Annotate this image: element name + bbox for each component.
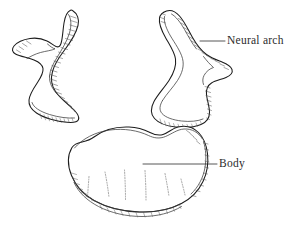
vertebra-figure: Neural arch Body: [0, 0, 305, 231]
right-neural-arch-group: [151, 11, 232, 129]
vertebral-body-outline: [69, 126, 208, 212]
left-neural-arch-group: [12, 10, 78, 122]
vertebral-body-group: [69, 126, 209, 217]
label-body: Body: [219, 158, 245, 170]
right-neural-arch-outline: [151, 11, 232, 128]
label-neural-arch: Neural arch: [227, 35, 284, 47]
left-neural-arch-outline: [12, 10, 78, 122]
